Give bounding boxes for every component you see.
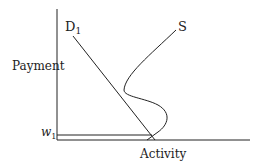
demand-label: D1 <box>65 19 81 36</box>
y-axis-label: Payment <box>12 59 65 73</box>
wage-label: w1 <box>41 125 56 141</box>
demand-curve <box>73 36 155 140</box>
labor-supply-diagram: D1 S Payment Activity w1 <box>0 0 260 167</box>
supply-label: S <box>178 19 187 34</box>
supply-curve <box>124 30 176 140</box>
x-axis-label: Activity <box>139 147 186 161</box>
